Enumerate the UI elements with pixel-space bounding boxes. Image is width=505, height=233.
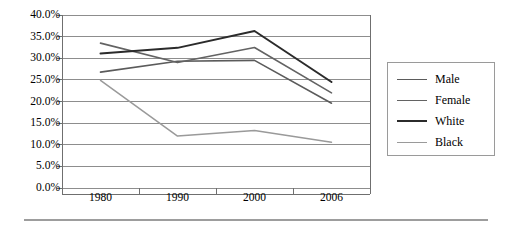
y-tick-label: 25.0% [14,74,60,86]
y-tick-label: 10.0% [14,139,60,151]
y-tick-label: 30.0% [14,52,60,64]
x-tick-label: 2000 [225,192,285,204]
chart-plot-area: 0.0%5.0%10.0%15.0%20.0%25.0%30.0%35.0%40… [0,0,380,210]
x-tick-label: 1990 [148,192,208,204]
series-line-white [101,31,332,82]
legend-item-male[interactable]: Male [388,68,496,90]
y-tick-label: 35.0% [14,31,60,43]
legend-item-female[interactable]: Female [388,89,496,111]
y-tick-label: 5.0% [14,160,60,172]
gridlines-group [62,15,370,188]
legend-swatch-female-icon [397,100,427,101]
x-tick-label: 1980 [71,192,131,204]
legend-swatch-male-icon [397,79,427,80]
bottom-divider-rule [24,219,488,221]
y-axis-tick-labels: 0.0%5.0%10.0%15.0%20.0%25.0%30.0%35.0%40… [8,0,60,210]
legend-label: Female [435,94,470,106]
y-tick-label: 20.0% [14,96,60,108]
y-tick-label: 40.0% [14,9,60,21]
chart-legend: MaleFemaleWhiteBlack [387,62,495,156]
x-axis-tick-labels: 1980199020002006 [62,192,370,210]
series-line-male [101,60,332,103]
legend-swatch-white-icon [397,120,427,122]
legend-item-black[interactable]: Black [388,131,496,153]
legend-item-white[interactable]: White [388,110,496,132]
chart-figure: 0.0%5.0%10.0%15.0%20.0%25.0%30.0%35.0%40… [0,0,505,233]
y-tick-label: 0.0% [14,182,60,194]
legend-swatch-black-icon [397,142,427,143]
series-lines-group [101,31,332,142]
series-line-black [101,80,332,142]
legend-label: Male [435,73,460,85]
x-tick-label: 2006 [302,192,362,204]
legend-label: Black [435,136,463,148]
axis-frame-group [62,15,370,194]
legend-label: White [435,115,464,127]
y-tick-label: 15.0% [14,117,60,129]
